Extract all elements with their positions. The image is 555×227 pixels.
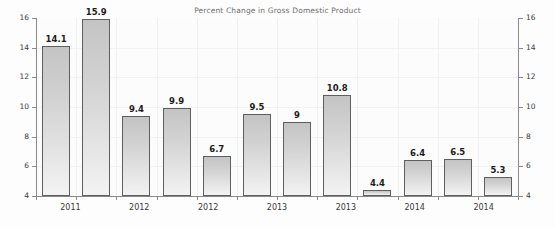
y-axis-tick xyxy=(32,18,36,19)
y-axis-tick-label: 4 xyxy=(526,191,531,200)
y-axis-tick-label: 16 xyxy=(526,13,536,22)
y-axis-tick-label: 8 xyxy=(24,132,29,141)
x-axis-tick xyxy=(197,196,198,200)
x-axis-tick xyxy=(518,196,519,200)
y-axis-tick-label: 10 xyxy=(19,102,29,111)
bar[interactable] xyxy=(243,114,271,196)
x-axis-tick xyxy=(277,196,278,200)
gridline-vertical xyxy=(478,18,479,196)
y-axis-tick xyxy=(32,48,36,49)
y-axis-tick xyxy=(32,166,36,167)
y-axis-tick-label: 12 xyxy=(19,72,29,81)
y-axis-tick xyxy=(32,77,36,78)
x-axis-tick xyxy=(157,196,158,200)
bar-value-label: 6.7 xyxy=(209,144,224,154)
bar-value-label: 14.1 xyxy=(46,34,67,44)
bar[interactable] xyxy=(283,122,311,196)
y-axis-left-line xyxy=(36,18,37,196)
bar-value-label: 5.3 xyxy=(490,165,505,175)
bar-value-label: 9.4 xyxy=(129,104,144,114)
gridline-vertical xyxy=(197,18,198,196)
bar-value-label: 10.8 xyxy=(327,83,348,93)
x-axis-tick xyxy=(76,196,77,200)
bar-value-label: 9.5 xyxy=(249,102,264,112)
y-axis-tick xyxy=(519,48,523,49)
y-axis-tick-label: 6 xyxy=(24,161,29,170)
bar[interactable] xyxy=(82,19,110,196)
x-axis-tick xyxy=(116,196,117,200)
x-axis-tick xyxy=(36,196,37,200)
y-axis-tick xyxy=(519,137,523,138)
y-axis-tick xyxy=(519,196,523,197)
x-axis-tick xyxy=(398,196,399,200)
x-axis-tick xyxy=(317,196,318,200)
y-axis-tick-label: 4 xyxy=(24,191,29,200)
bar[interactable] xyxy=(404,160,432,196)
y-axis-tick xyxy=(519,18,523,19)
y-axis-tick xyxy=(519,166,523,167)
x-axis-tick xyxy=(478,196,479,200)
y-axis-tick-label: 12 xyxy=(526,72,536,81)
y-axis-tick-label: 14 xyxy=(526,43,536,52)
x-axis-tick-label: 2014 xyxy=(473,203,493,212)
x-axis-tick xyxy=(357,196,358,200)
plot-area xyxy=(36,18,518,196)
bar[interactable] xyxy=(163,108,191,196)
bar-value-label: 9.9 xyxy=(169,96,184,106)
y-axis-tick-label: 16 xyxy=(19,13,29,22)
gridline-vertical xyxy=(157,18,158,196)
x-axis-tick-label: 2012 xyxy=(129,203,149,212)
gridline-vertical xyxy=(357,18,358,196)
y-axis-tick xyxy=(519,107,523,108)
gridline-vertical xyxy=(277,18,278,196)
x-axis-tick xyxy=(237,196,238,200)
x-axis-tick-label: 2012 xyxy=(198,203,218,212)
x-axis-tick-label: 2013 xyxy=(267,203,287,212)
x-axis-tick-label: 2011 xyxy=(60,203,80,212)
y-axis-tick-label: 6 xyxy=(526,161,531,170)
gridline-vertical xyxy=(317,18,318,196)
bar[interactable] xyxy=(444,159,472,196)
y-axis-tick-label: 14 xyxy=(19,43,29,52)
gridline-vertical xyxy=(76,18,77,196)
gridline-vertical xyxy=(398,18,399,196)
gridline-vertical xyxy=(237,18,238,196)
chart-title: Percent Change in Gross Domestic Product xyxy=(0,6,555,15)
y-axis-tick-label: 10 xyxy=(526,102,536,111)
bar-value-label: 6.5 xyxy=(450,147,465,157)
bar-value-label: 15.9 xyxy=(86,7,107,17)
bar[interactable] xyxy=(323,95,351,196)
y-axis-tick xyxy=(519,77,523,78)
bar-value-label: 6.4 xyxy=(410,148,425,158)
bar-value-label: 9 xyxy=(294,110,300,120)
y-axis-tick xyxy=(32,137,36,138)
gridline-vertical xyxy=(116,18,117,196)
x-axis-tick xyxy=(438,196,439,200)
bar[interactable] xyxy=(203,156,231,196)
bar[interactable] xyxy=(42,46,70,196)
gridline-vertical xyxy=(438,18,439,196)
x-axis-tick-label: 2013 xyxy=(336,203,356,212)
y-axis-tick-label: 8 xyxy=(526,132,531,141)
bar-value-label: 4.4 xyxy=(370,178,385,188)
chart-container: Percent Change in Gross Domestic Product… xyxy=(0,0,555,227)
bar[interactable] xyxy=(122,116,150,196)
x-axis-tick-label: 2014 xyxy=(405,203,425,212)
y-axis-tick xyxy=(32,107,36,108)
bar[interactable] xyxy=(484,177,512,196)
